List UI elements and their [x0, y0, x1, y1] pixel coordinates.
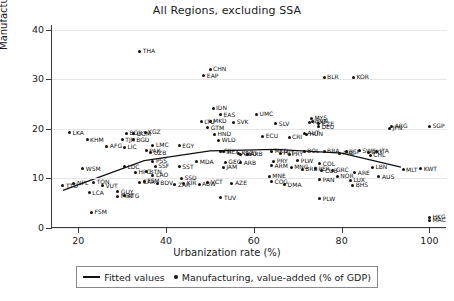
- data-point-label: PLW: [323, 196, 335, 202]
- data-point: [317, 125, 320, 128]
- x-tick: [254, 228, 255, 233]
- data-point-label: FJI: [224, 148, 231, 154]
- x-tick: [78, 228, 79, 233]
- data-point: [200, 120, 203, 123]
- data-point-label: MRT: [121, 193, 134, 199]
- legend-item-manufacturing: Manufacturing, value-added (% of GDP): [174, 272, 371, 283]
- data-point: [246, 153, 249, 156]
- data-point: [209, 68, 212, 71]
- data-point: [123, 165, 126, 168]
- data-point: [178, 165, 181, 168]
- x-tick-label: 40: [146, 235, 186, 246]
- data-point-label: WLD: [222, 137, 236, 143]
- x-tick-label: 80: [322, 235, 362, 246]
- data-point: [428, 125, 431, 128]
- scatter-chart: All Regions, excluding SSA Manufacturing…: [0, 0, 454, 301]
- x-tick-label: 100: [409, 235, 449, 246]
- dot-swatch-icon: [174, 275, 178, 279]
- data-point: [323, 150, 326, 153]
- data-point-label: KOR: [357, 74, 370, 80]
- data-point: [402, 168, 405, 171]
- chart-title: All Regions, excluding SSA: [0, 4, 454, 17]
- x-tick: [342, 228, 343, 233]
- data-point: [268, 175, 271, 178]
- data-point: [305, 133, 308, 136]
- data-point-label: DEU: [321, 124, 334, 130]
- gridline: [52, 79, 447, 80]
- data-point-label: DMA: [288, 182, 302, 188]
- data-point-label: LBN: [375, 164, 387, 170]
- data-point-label: KHM: [90, 137, 104, 143]
- data-point: [371, 166, 374, 169]
- y-tick-label: 40: [6, 24, 44, 35]
- data-point-label: SVK: [237, 119, 249, 125]
- data-point-label: WSM: [86, 166, 101, 172]
- data-point: [336, 175, 339, 178]
- data-point: [428, 219, 431, 222]
- legend-label-manufacturing: Manufacturing, value-added (% of GDP): [182, 272, 371, 283]
- data-point-label: TTO: [66, 183, 78, 189]
- data-point: [255, 113, 258, 116]
- data-point: [288, 136, 291, 139]
- data-point-label: BOL: [307, 148, 319, 154]
- data-point: [123, 146, 126, 149]
- data-point-label: SST: [182, 164, 193, 170]
- data-point-label: LKA: [73, 130, 84, 136]
- data-point-label: AZE: [235, 180, 247, 186]
- data-point-label: THA: [143, 48, 155, 54]
- data-point: [345, 150, 348, 153]
- y-tick: [46, 30, 52, 31]
- data-point: [369, 154, 372, 157]
- data-point: [239, 153, 242, 156]
- y-tick: [46, 228, 52, 229]
- data-point-label: EAP: [207, 73, 219, 79]
- line-swatch-icon: [83, 276, 100, 278]
- data-point: [209, 120, 212, 123]
- data-point-label: SLV: [279, 121, 290, 127]
- data-point: [232, 121, 235, 124]
- data-point-label: CAR: [143, 179, 155, 185]
- data-point: [338, 152, 341, 155]
- data-point-label: CHL: [373, 152, 385, 158]
- data-point-label: ARM: [274, 163, 287, 169]
- legend-item-fitted-values: Fitted values: [83, 272, 165, 283]
- gridline: [52, 30, 447, 31]
- data-point-label: MAC: [432, 217, 445, 223]
- data-point-label: JAM: [226, 164, 237, 170]
- data-point-label: UZB: [154, 150, 167, 156]
- data-point-label: HUN: [310, 131, 323, 137]
- data-point: [212, 107, 215, 110]
- y-tick-label: 10: [6, 172, 44, 183]
- x-tick-label: 60: [234, 235, 274, 246]
- data-point-label: BGD: [136, 137, 149, 143]
- data-point: [303, 150, 306, 153]
- legend-label-fitted-values: Fitted values: [104, 272, 165, 283]
- data-point: [290, 166, 293, 169]
- data-point: [156, 182, 159, 185]
- data-point: [308, 121, 311, 124]
- data-point-label: JPN: [393, 125, 403, 131]
- data-point-label: SGP: [432, 123, 444, 129]
- data-point: [279, 152, 282, 155]
- data-point: [388, 127, 391, 130]
- data-point-label: ARE: [358, 170, 370, 176]
- data-point-label: SSD: [184, 175, 196, 181]
- y-tick: [46, 129, 52, 130]
- data-point-label: UMC: [260, 111, 274, 117]
- data-point-label: VCT: [211, 179, 223, 185]
- x-tick: [429, 228, 430, 233]
- data-point-label: VUT: [105, 183, 117, 189]
- data-point: [198, 183, 201, 186]
- data-point-label: AUS: [382, 174, 394, 180]
- data-point-label: ARB: [250, 151, 262, 157]
- data-point-label: TUV: [224, 195, 236, 201]
- data-point: [323, 76, 326, 79]
- data-point-label: NPL: [77, 180, 88, 186]
- x-tick: [166, 228, 167, 233]
- data-point: [134, 171, 137, 174]
- data-point-label: LUX: [353, 177, 365, 183]
- data-point-label: LCA: [92, 190, 104, 196]
- data-point-label: BLR: [327, 74, 339, 80]
- y-tick-label: 20: [6, 123, 44, 134]
- data-point-label: FSM: [95, 209, 107, 215]
